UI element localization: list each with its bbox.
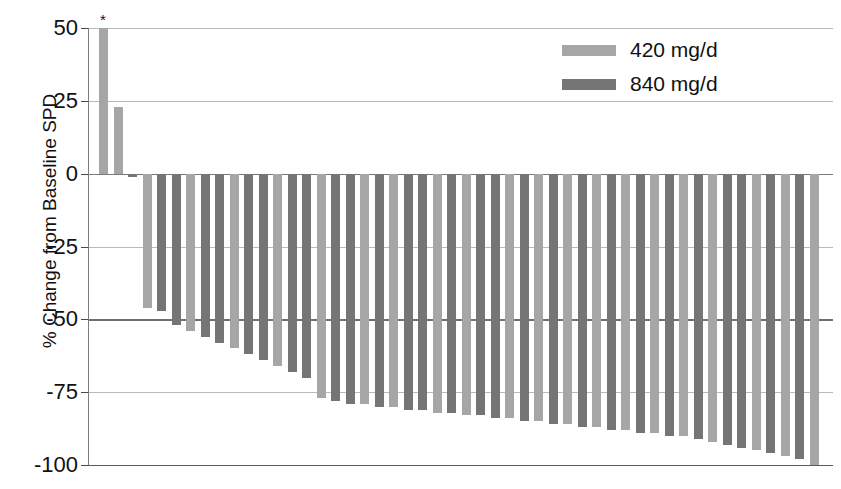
bar	[360, 174, 369, 404]
bar	[230, 174, 239, 349]
y-tick-mark	[81, 101, 88, 102]
bar	[375, 174, 384, 407]
legend-swatch-icon	[562, 79, 616, 90]
bar	[781, 174, 790, 457]
bar	[476, 174, 485, 416]
bar	[621, 174, 630, 430]
bar	[404, 174, 413, 410]
bar	[650, 174, 659, 433]
bar	[810, 174, 819, 465]
bar	[694, 174, 703, 439]
y-tick-label: -75	[22, 379, 78, 405]
y-tick-mark	[81, 319, 88, 320]
bar	[128, 174, 137, 177]
bar	[723, 174, 732, 445]
bar	[215, 174, 224, 343]
bar	[462, 174, 471, 416]
legend-label: 420 mg/d	[630, 38, 718, 62]
bar	[563, 174, 572, 425]
legend-label: 840 mg/d	[630, 72, 718, 96]
bar	[447, 174, 456, 413]
bar	[708, 174, 717, 442]
y-tick-label: -50	[22, 306, 78, 332]
bar	[505, 174, 514, 419]
y-tick-label: 0	[22, 161, 78, 187]
y-tick-mark	[81, 465, 88, 466]
bar	[752, 174, 761, 451]
y-tick-label: -100	[22, 452, 78, 478]
bar	[346, 174, 355, 404]
legend-swatch-icon	[562, 45, 616, 56]
y-tick-mark	[81, 247, 88, 248]
y-axis-tick-labels: 50250-25-50-75-100	[16, 0, 78, 489]
bar	[592, 174, 601, 427]
bar	[273, 174, 282, 366]
legend-item: 840 mg/d	[562, 67, 762, 101]
chart-legend: 420 mg/d840 mg/d	[562, 33, 762, 101]
bar	[317, 174, 326, 398]
bar	[201, 174, 210, 337]
bar	[172, 174, 181, 325]
y-tick-label: 50	[22, 15, 78, 41]
y-tick-mark	[81, 28, 88, 29]
bar	[114, 107, 123, 174]
bar	[331, 174, 340, 401]
bar	[607, 174, 616, 430]
bar	[578, 174, 587, 427]
bar	[549, 174, 558, 425]
y-tick-label: -25	[22, 234, 78, 260]
legend-item: 420 mg/d	[562, 33, 762, 67]
bar	[636, 174, 645, 433]
bar	[737, 174, 746, 448]
bar	[766, 174, 775, 454]
bar	[244, 174, 253, 355]
bar	[288, 174, 297, 372]
bar	[389, 174, 398, 407]
bar	[157, 174, 166, 311]
bar	[665, 174, 674, 436]
waterfall-chart: % Change from Baseline SPD 50250-25-50-7…	[0, 0, 841, 489]
significance-asterisk: *	[100, 12, 106, 27]
y-tick-mark	[81, 392, 88, 393]
bar	[534, 174, 543, 422]
bar	[418, 174, 427, 410]
bar	[679, 174, 688, 436]
bar	[259, 174, 268, 360]
y-tick-mark	[81, 174, 88, 175]
bar	[143, 174, 152, 308]
bar	[491, 174, 500, 419]
bar	[520, 174, 529, 422]
bar	[99, 28, 108, 174]
bar	[433, 174, 442, 413]
y-tick-label: 25	[22, 88, 78, 114]
bar	[795, 174, 804, 460]
bar	[186, 174, 195, 331]
bar	[302, 174, 311, 378]
